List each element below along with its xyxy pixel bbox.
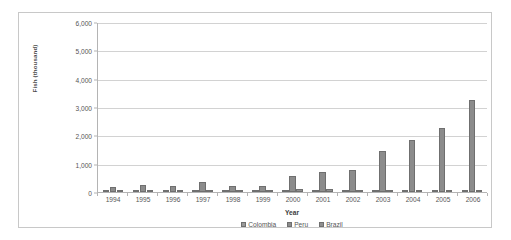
bar-peru-1996 (170, 186, 177, 192)
legend-label: Colombia (248, 221, 276, 228)
x-tick-mark (277, 193, 278, 196)
x-tick-mark (487, 193, 488, 196)
chart-legend: ColombiaPeruBrazil (97, 221, 487, 228)
year-group (98, 23, 128, 192)
x-axis-title: Year (97, 209, 487, 216)
x-tick-mark (157, 193, 158, 196)
bar-colombia-1996 (163, 190, 170, 192)
bar-peru-2003 (379, 151, 386, 192)
bar-peru-2000 (289, 176, 296, 192)
legend-label: Peru (294, 221, 308, 228)
bar-peru-2006 (469, 100, 476, 192)
legend-swatch-icon (241, 222, 246, 227)
x-tick-label: 2004 (398, 196, 428, 203)
y-tick-label: 4,000 (75, 76, 92, 83)
x-tick-mark (337, 193, 338, 196)
bar-brazil-2000 (296, 189, 303, 192)
bar-peru-1994 (110, 187, 117, 192)
bar-colombia-2005 (432, 190, 439, 192)
x-tick-label: 2005 (428, 196, 458, 203)
x-tick-label: 1998 (218, 196, 248, 203)
x-tick-label: 2001 (308, 196, 338, 203)
x-axis-line (97, 192, 487, 193)
y-tick-mark (94, 164, 97, 165)
x-tick-label: 2006 (458, 196, 488, 203)
x-tick-mark (427, 193, 428, 196)
bar-brazil-1994 (117, 190, 124, 192)
bars-layer (98, 23, 487, 192)
year-group (248, 23, 278, 192)
year-group (158, 23, 188, 192)
bar-colombia-2001 (312, 190, 319, 192)
legend-label: Brazil (326, 221, 343, 228)
bar-brazil-2006 (476, 190, 483, 192)
x-tick-label: 2003 (368, 196, 398, 203)
bar-colombia-1999 (252, 190, 259, 192)
bar-colombia-1998 (222, 190, 229, 192)
y-tick-mark (94, 23, 97, 24)
x-tick-label: 1994 (98, 196, 128, 203)
x-tick-mark (187, 193, 188, 196)
x-tick-label: 1995 (128, 196, 158, 203)
bar-colombia-2000 (282, 190, 289, 192)
bar-brazil-1999 (266, 190, 273, 192)
y-tick-label: 1,000 (75, 161, 92, 168)
year-group (367, 23, 397, 192)
plot-area: 01,0002,0003,0004,0005,0006,000 (97, 23, 487, 193)
x-tick-mark (127, 193, 128, 196)
bar-colombia-1995 (133, 190, 140, 192)
x-tick-mark (457, 193, 458, 196)
legend-swatch-icon (287, 222, 292, 227)
y-tick-label: 0 (88, 190, 92, 197)
y-tick-label: 2,000 (75, 133, 92, 140)
year-group (188, 23, 218, 192)
bar-peru-2002 (349, 170, 356, 192)
x-tick-mark (397, 193, 398, 196)
year-group (307, 23, 337, 192)
y-tick-mark (94, 51, 97, 52)
legend-item-colombia[interactable]: Colombia (241, 221, 276, 228)
y-tick-mark (94, 108, 97, 109)
bar-brazil-1996 (177, 190, 184, 192)
year-group (218, 23, 248, 192)
bar-colombia-2002 (342, 190, 349, 192)
legend-swatch-icon (319, 222, 324, 227)
year-group (427, 23, 457, 192)
bar-colombia-2004 (402, 190, 409, 192)
bar-brazil-2005 (446, 190, 453, 192)
legend-item-peru[interactable]: Peru (287, 221, 308, 228)
bar-peru-1995 (140, 185, 147, 192)
bar-chart-figure: Fish (thousand) 01,0002,0003,0004,0005,0… (0, 0, 511, 240)
bar-brazil-2003 (386, 190, 393, 192)
x-tick-mark (367, 193, 368, 196)
y-tick-mark (94, 136, 97, 137)
x-tick-mark (247, 193, 248, 196)
year-group (397, 23, 427, 192)
year-group (128, 23, 158, 192)
x-tick-mark (217, 193, 218, 196)
x-tick-label: 1999 (248, 196, 278, 203)
y-tick-label: 6,000 (75, 20, 92, 27)
y-tick-mark (94, 79, 97, 80)
bar-brazil-1995 (147, 190, 154, 192)
bar-peru-2001 (319, 172, 326, 192)
y-tick-label: 3,000 (75, 105, 92, 112)
y-axis-title: Fish (thousand) (31, 26, 38, 112)
bar-peru-1997 (199, 182, 206, 192)
bar-brazil-1997 (206, 190, 213, 192)
year-group (337, 23, 367, 192)
x-tick-mark (97, 193, 98, 196)
bar-colombia-1997 (192, 190, 199, 192)
bar-colombia-2003 (372, 190, 379, 192)
bar-brazil-1998 (236, 190, 243, 192)
bar-colombia-2006 (462, 190, 469, 192)
year-group (278, 23, 308, 192)
chart-frame: Fish (thousand) 01,0002,0003,0004,0005,0… (18, 12, 492, 228)
bar-brazil-2002 (356, 190, 363, 192)
bar-peru-1998 (229, 186, 236, 192)
bar-peru-2004 (409, 140, 416, 192)
x-tick-label: 2002 (338, 196, 368, 203)
bar-brazil-2004 (416, 190, 423, 192)
bar-colombia-1994 (103, 190, 110, 192)
legend-item-brazil[interactable]: Brazil (319, 221, 343, 228)
